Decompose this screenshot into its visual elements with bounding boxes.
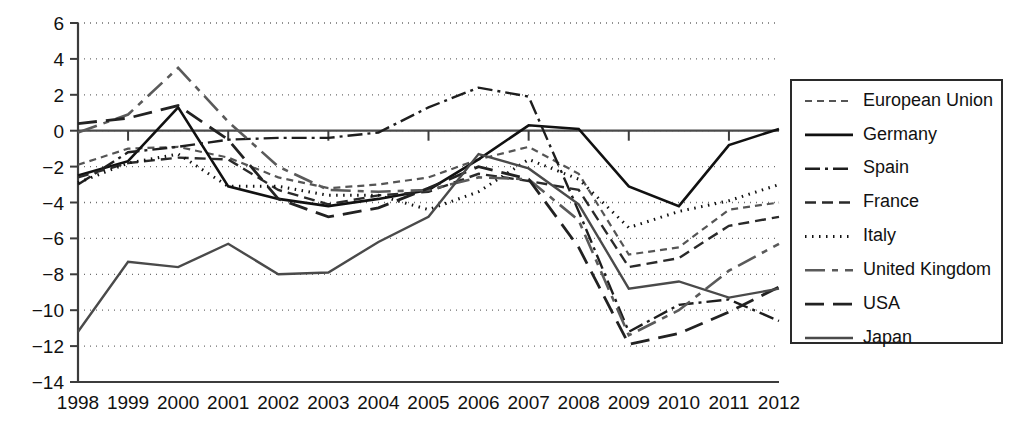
y-tick-label-4: −2 [42, 157, 64, 178]
y-tick-label-2: 2 [53, 85, 64, 106]
x-tick-label-1: 1999 [107, 392, 149, 413]
x-tick-label-5: 2003 [307, 392, 349, 413]
x-tick-label-14: 2012 [758, 392, 800, 413]
y-tick-label-0: 6 [53, 13, 64, 34]
legend-label-japan: Japan [863, 327, 912, 347]
x-tick-label-7: 2005 [407, 392, 449, 413]
y-tick-label-5: −4 [42, 193, 64, 214]
data-series-group [78, 68, 779, 344]
y-tick-label-10: −14 [32, 372, 65, 393]
y-tick-label-3: 0 [53, 121, 64, 142]
chart-container: 6420−2−4−6−8−10−12−14 199819992000200120… [0, 0, 1010, 431]
line-chart-figure: 6420−2−4−6−8−10−12−14 199819992000200120… [0, 0, 1010, 431]
x-tick-label-8: 2006 [457, 392, 499, 413]
series-line-spain [78, 88, 779, 332]
x-tick-label-12: 2010 [658, 392, 700, 413]
x-axis-tick-labels: 1998199920002001200220032004200520062007… [57, 392, 800, 413]
legend-label-france: France [863, 191, 919, 211]
x-tick-label-3: 2001 [207, 392, 249, 413]
legend-label-european-union: European Union [863, 90, 993, 110]
legend-label-germany: Germany [863, 124, 937, 144]
y-tick-label-8: −10 [32, 300, 64, 321]
y-tick-marks [70, 23, 78, 382]
x-tick-label-0: 1998 [57, 392, 99, 413]
x-tick-label-4: 2002 [257, 392, 299, 413]
gridlines-group [78, 23, 779, 382]
legend-label-spain: Spain [863, 157, 909, 177]
legend-label-italy: Italy [863, 225, 896, 245]
x-tick-label-2: 2000 [157, 392, 199, 413]
y-tick-label-1: 4 [53, 49, 64, 70]
legend-label-united-kingdom: United Kingdom [863, 259, 991, 279]
x-tick-label-10: 2008 [558, 392, 600, 413]
y-tick-label-7: −8 [42, 264, 64, 285]
y-tick-label-9: −12 [32, 336, 64, 357]
legend-label-usa: USA [863, 293, 900, 313]
x-tick-label-9: 2007 [508, 392, 550, 413]
x-tick-label-11: 2009 [608, 392, 650, 413]
series-line-european-union [78, 147, 779, 255]
chart-legend: European UnionGermanySpainFranceItalyUni… [791, 80, 1002, 347]
y-axis-tick-labels: 6420−2−4−6−8−10−12−14 [32, 13, 65, 393]
x-tick-label-13: 2011 [708, 392, 749, 413]
y-tick-label-6: −6 [42, 228, 64, 249]
x-tick-label-6: 2004 [357, 392, 400, 413]
series-line-japan [78, 154, 779, 332]
axes-group [78, 23, 779, 382]
